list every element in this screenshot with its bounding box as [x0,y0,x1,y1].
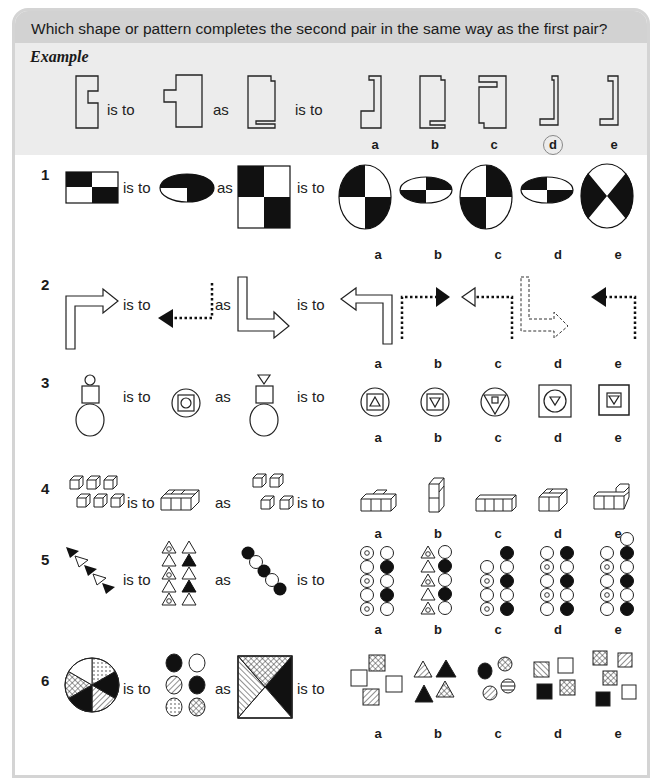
q3-option-d[interactable] [538,384,574,420]
q6-option-b[interactable] [413,659,468,714]
option-label-d: d [548,247,568,262]
example-shape-2 [163,74,208,129]
is-to-text: is to [297,296,325,313]
q2-option-b[interactable] [400,281,455,341]
example-label: Example [30,48,89,66]
q4-option-a[interactable] [360,490,400,515]
option-label-a: a [368,430,388,445]
question-number: 4 [41,480,49,497]
is-to-text: is to [123,680,151,697]
option-label-a: a [368,622,388,637]
q4-option-b[interactable] [428,476,448,516]
q5-option-e[interactable] [600,532,640,616]
example-option-a[interactable] [360,75,390,130]
is-to-text: is to [123,571,151,588]
question-number: 3 [41,374,49,391]
q5-diagonal-circle-chain [240,546,290,601]
is-to-text: is to [297,571,325,588]
q4-joined-block-six [160,489,205,514]
option-label-d: d [548,622,568,637]
option-label-b: b [428,247,448,262]
option-label-c: c [488,526,508,541]
option-label-d-circled: d [543,135,563,155]
q4-option-d[interactable] [538,486,573,516]
option-label-a: a [365,137,385,152]
option-label-e: e [608,247,628,262]
option-label-c: c [488,430,508,445]
is-to-text: is to [297,179,325,196]
example-shape-1 [75,75,105,130]
is-to-text: is to [107,101,135,118]
is-to-text: is to [295,101,323,118]
option-label-b: b [428,726,448,741]
option-label-b: b [425,137,445,152]
q6-patterned-pie [63,656,123,716]
question-number: 6 [41,672,49,689]
option-label-c: c [484,137,504,152]
option-label-a: a [368,356,388,371]
q2-option-e[interactable] [590,281,645,341]
option-label-b: b [428,356,448,371]
q5-two-triangle-columns [162,541,202,606]
q2-dotted-black-arrow [157,281,217,341]
q3-stacked-circle-square-circle [75,374,111,444]
is-to-text: is to [297,388,325,405]
q5-option-a[interactable] [360,546,400,616]
q2-option-d[interactable] [520,276,575,348]
example-option-b[interactable] [419,75,451,130]
q3-option-e[interactable] [598,384,634,420]
q4-four-separate-cubes [245,474,300,516]
example-option-e[interactable] [599,75,629,130]
q1-quartered-ellipse [158,171,216,205]
as-text: as [215,388,231,405]
option-label-b: b [428,526,448,541]
q2-option-a[interactable] [340,278,395,348]
q1-option-e[interactable] [580,162,636,232]
q6-option-d[interactable] [533,656,588,716]
as-text: as [215,296,231,313]
option-label-e: e [604,137,624,152]
option-label-b: b [428,430,448,445]
q1-option-c[interactable] [459,164,515,232]
example-option-c[interactable] [478,75,510,130]
q4-option-e[interactable] [593,484,638,514]
option-label-d: d [548,526,568,541]
q1-option-a[interactable] [338,164,394,232]
as-text: as [215,571,231,588]
is-to-text: is to [297,680,325,697]
is-to-text: is to [123,388,151,405]
q4-option-c[interactable] [475,494,520,514]
option-label-c: c [488,247,508,262]
q5-option-d[interactable] [540,546,580,616]
option-label-e: e [608,622,628,637]
q6-six-patterned-circles [165,654,210,720]
option-label-a: a [368,526,388,541]
option-label-e: e [608,430,628,445]
q2-option-c[interactable] [460,281,515,341]
q6-option-a[interactable] [350,654,410,719]
as-text: as [215,494,231,511]
q5-option-b[interactable] [421,545,461,617]
q3-option-b[interactable] [420,387,452,419]
q3-option-c[interactable] [480,387,512,419]
q6-option-c[interactable] [477,656,522,716]
is-to-text: is to [127,494,155,511]
q3-option-a[interactable] [360,387,392,419]
option-label-b: b [428,622,448,637]
worksheet-panel: Which shape or pattern completes the sec… [12,8,650,778]
q5-diagonal-triangle-chain [65,545,115,605]
is-to-text: is to [123,296,151,313]
instruction-text: Which shape or pattern completes the sec… [31,20,607,38]
q1-option-d[interactable] [520,174,576,210]
question-number: 2 [41,276,49,293]
q6-option-e[interactable] [591,649,641,717]
q5-option-c[interactable] [480,546,520,616]
q1-option-b[interactable] [399,174,455,210]
option-label-c: c [488,356,508,371]
option-label-d: d [548,356,568,371]
example-option-d[interactable] [539,75,569,130]
q1-quartered-square [237,165,293,231]
option-label-a: a [368,726,388,741]
instruction-header: Which shape or pattern completes the sec… [15,11,647,43]
question-number: 5 [41,551,49,568]
